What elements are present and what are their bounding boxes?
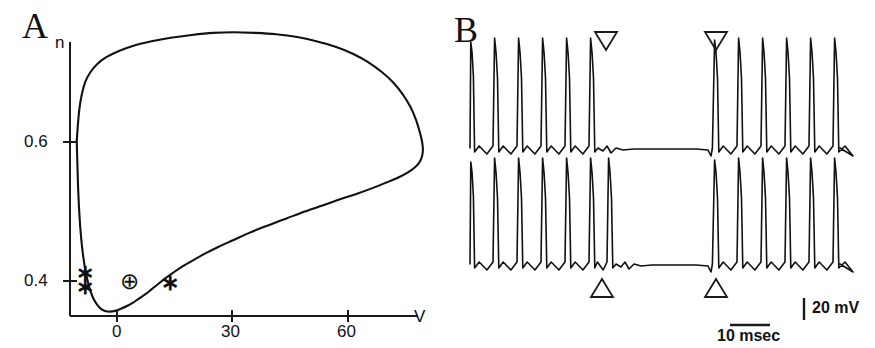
panel-b: B 20 mV 10 msec: [440, 0, 875, 348]
voltage-trace-bottom: [470, 158, 853, 272]
up-triangle-1-icon: [591, 279, 613, 297]
panel-b-plot: [440, 0, 875, 348]
down-triangle-1-icon: [595, 32, 617, 50]
voltage-trace-top: [470, 38, 853, 156]
panel-a: A n V 0.6 0.4 0 30 60 ∗ ∗ ⊕ ∗: [0, 0, 440, 348]
voltage-scale-label: 20 mV: [812, 299, 859, 317]
x-tick-label-0: 0: [112, 322, 121, 342]
time-scale-label: 10 msec: [717, 327, 780, 345]
y-axis-label: n: [55, 33, 64, 53]
x-tick-label-30: 30: [221, 322, 240, 342]
asterisk-right-marker: ∗: [161, 272, 179, 294]
y-tick-label-0.6: 0.6: [24, 132, 48, 152]
x-axis-label: V: [414, 307, 425, 327]
asterisk-lower-left-marker: ∗: [76, 276, 94, 298]
y-tick-label-0.4: 0.4: [24, 271, 48, 291]
x-tick-label-60: 60: [337, 322, 356, 342]
up-triangle-2-icon: [705, 279, 727, 297]
circled-plus-marker: ⊕: [120, 270, 139, 293]
figure-container: A n V 0.6 0.4 0 30 60 ∗ ∗ ⊕ ∗ B: [0, 0, 875, 348]
panel-a-plot: [0, 0, 440, 348]
